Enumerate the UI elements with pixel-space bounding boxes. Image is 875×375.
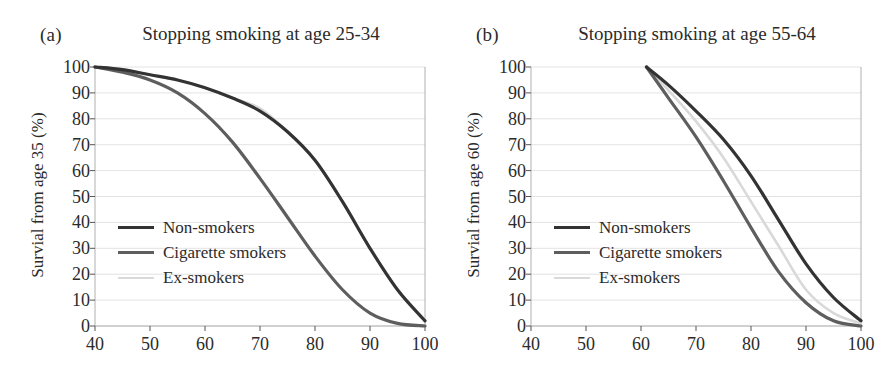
panel-b-legend-item[interactable]: Non-smokers xyxy=(554,215,722,240)
panel-b: (b) Stopping smoking at age 55-64 Survia… xyxy=(436,0,872,375)
panel-a-legend-label: Ex-smokers xyxy=(163,269,244,286)
panel-b-legend-swatch xyxy=(554,251,590,254)
panel-a-legend-label: Non-smokers xyxy=(163,219,255,236)
panel-b-plot-area: 0102030405060708090100 405060708090100 N… xyxy=(436,0,872,375)
panel-a-x-tick-label: 50 xyxy=(141,334,159,355)
panel-b-legend: Non-smokersCigarette smokersEx-smokers xyxy=(554,215,722,290)
panel-a-legend-swatch xyxy=(118,251,154,254)
panel-b-legend-swatch xyxy=(554,226,590,229)
panel-a-x-tick-label: 90 xyxy=(361,334,379,355)
panel-b-legend-swatch xyxy=(554,277,590,279)
panel-b-legend-label: Ex-smokers xyxy=(599,269,680,286)
panel-b-x-tick-label: 70 xyxy=(687,334,705,355)
panel-b-legend-label: Cigarette smokers xyxy=(599,244,722,261)
panel-b-x-tick-label: 90 xyxy=(797,334,815,355)
panel-b-x-tick-label: 100 xyxy=(848,334,875,355)
panel-a-x-tick-label: 100 xyxy=(412,334,439,355)
panel-a-legend: Non-smokersCigarette smokersEx-smokers xyxy=(118,215,286,290)
panel-b-x-tick-label: 40 xyxy=(522,334,540,355)
panel-a-x-ticks: 405060708090100 xyxy=(0,0,436,375)
panel-a-legend-swatch xyxy=(118,226,154,229)
panel-a-legend-item[interactable]: Ex-smokers xyxy=(118,265,286,290)
panel-b-x-tick-label: 60 xyxy=(632,334,650,355)
panel-a-legend-item[interactable]: Non-smokers xyxy=(118,215,286,240)
panel-a-legend-item[interactable]: Cigarette smokers xyxy=(118,240,286,265)
panel-a-x-tick-label: 40 xyxy=(86,334,104,355)
panel-b-x-ticks: 405060708090100 xyxy=(436,0,872,375)
panel-a-legend-swatch xyxy=(118,277,154,279)
panel-b-legend-item[interactable]: Cigarette smokers xyxy=(554,240,722,265)
panel-b-x-tick-label: 50 xyxy=(577,334,595,355)
panel-b-legend-label: Non-smokers xyxy=(599,219,691,236)
panel-a-x-tick-label: 80 xyxy=(306,334,324,355)
panel-a-legend-label: Cigarette smokers xyxy=(163,244,286,261)
panel-a: (a) Stopping smoking at age 25-34 Survia… xyxy=(0,0,436,375)
panel-a-x-tick-label: 70 xyxy=(251,334,269,355)
panel-a-plot-area: 0102030405060708090100 405060708090100 N… xyxy=(0,0,436,375)
panel-b-x-tick-label: 80 xyxy=(742,334,760,355)
panel-b-legend-item[interactable]: Ex-smokers xyxy=(554,265,722,290)
panel-a-x-tick-label: 60 xyxy=(196,334,214,355)
